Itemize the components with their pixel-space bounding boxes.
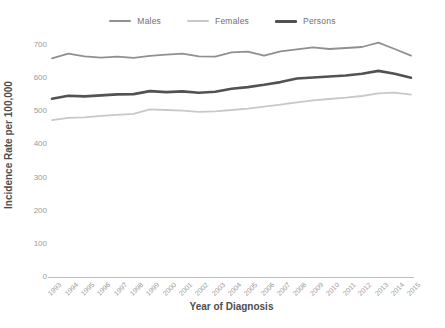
y-tick-label: 500 [0, 106, 47, 116]
y-tick-label: 600 [0, 73, 47, 83]
persons-series-line [52, 71, 411, 99]
y-tick-label: 100 [0, 239, 47, 249]
y-tick-label: 0 [0, 272, 47, 282]
males-series-line [52, 43, 411, 59]
incidence-rate-chart: Males Females Persons Incidence Rate per… [0, 0, 445, 328]
y-tick-label: 400 [0, 139, 47, 149]
x-axis-title: Year of Diagnosis [52, 301, 411, 312]
y-tick-label: 300 [0, 173, 47, 183]
y-tick-label: 700 [0, 40, 47, 50]
plot-area [0, 0, 445, 328]
females-series-line [52, 93, 411, 121]
y-tick-label: 200 [0, 206, 47, 216]
